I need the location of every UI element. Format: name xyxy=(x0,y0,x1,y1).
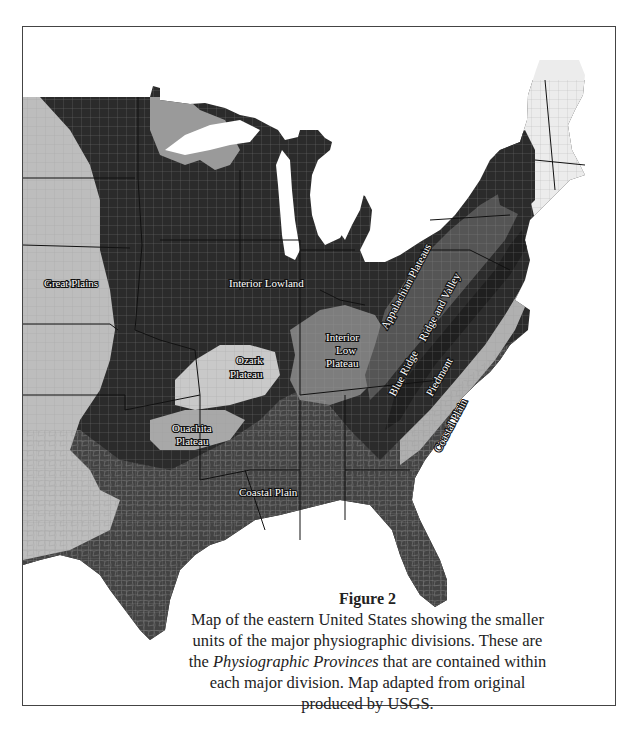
caption-italic-term: Physiographic Provinces xyxy=(213,652,379,671)
label-interior-low-plateau: Plateau xyxy=(326,357,359,369)
label-ouachita-plateau: Plateau xyxy=(176,435,209,447)
label-ozark-plateau: Plateau xyxy=(230,368,263,380)
label-ouachita-plateau: Ouachita xyxy=(172,422,212,434)
figure-title: Figure 2 xyxy=(185,588,550,609)
label-interior-lowland: Interior Lowland xyxy=(229,277,304,289)
label-ozark-plateau: Ozark xyxy=(236,354,263,366)
label-interior-low-plateau: Low xyxy=(336,344,356,356)
figure-caption: Figure 2 Map of the eastern United State… xyxy=(185,588,550,714)
figure-description: Map of the eastern United States showing… xyxy=(185,609,550,714)
label-coastal-plain-west: Coastal Plain xyxy=(239,486,298,498)
label-interior-low-plateau: Interior xyxy=(326,331,359,343)
label-great-plains: Great Plains xyxy=(44,277,98,289)
